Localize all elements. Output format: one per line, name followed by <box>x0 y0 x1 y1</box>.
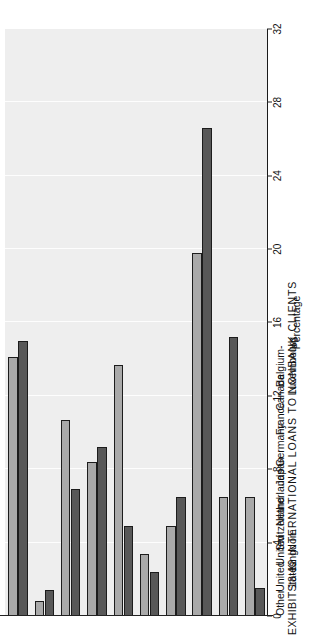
plot-area <box>5 29 268 616</box>
bar-1990-belgium--luxembourg <box>8 357 18 616</box>
bar-1975-japan <box>124 526 134 616</box>
bar-1975-other <box>255 588 265 616</box>
bar-1975-united-states <box>229 337 239 616</box>
tick-label-20: 20 <box>272 244 283 255</box>
bar-series-container <box>5 29 268 616</box>
bar-1975-germany <box>97 447 107 616</box>
bar-1990-switzerland <box>166 526 176 616</box>
category-label-united-states: United States <box>275 561 298 591</box>
bar-1975-netherlands <box>150 572 160 616</box>
tick-label-24: 24 <box>272 170 283 181</box>
bar-1990-united-kingdom <box>192 253 202 616</box>
tick-label-28: 28 <box>272 97 283 108</box>
bar-1990-united-states <box>219 497 229 616</box>
bar-1975-belgium--luxembourg <box>18 341 28 616</box>
value-axis-title: Percentage <box>290 29 302 616</box>
category-label-other: Other <box>275 590 287 616</box>
bar-1990-france <box>61 420 71 616</box>
bar-1975-canada <box>45 590 55 616</box>
rotated-figure-canvas: EXHIBIT 18-12 INTERNATIONAL LOANS TO NON… <box>0 0 322 639</box>
tick-label-16: 16 <box>272 317 283 328</box>
figure-page: EXHIBIT 18-12 INTERNATIONAL LOANS TO NON… <box>0 0 322 639</box>
bar-1990-canada <box>35 601 45 616</box>
bar-1975-switzerland <box>176 497 186 616</box>
bar-1990-japan <box>114 365 124 616</box>
value-axis-line <box>0 615 273 616</box>
bar-1975-united-kingdom <box>202 128 212 616</box>
bar-1990-netherlands <box>140 554 150 616</box>
bar-1975-france <box>71 489 81 616</box>
bar-1990-germany <box>87 462 97 616</box>
bar-1990-other <box>245 497 255 616</box>
tick-label-32: 32 <box>272 23 283 34</box>
